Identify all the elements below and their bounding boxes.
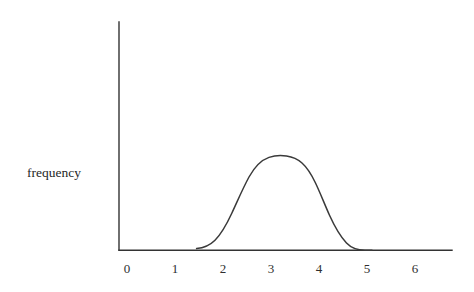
chart-background <box>0 0 474 292</box>
x-tick-label-0: 0 <box>124 261 131 276</box>
x-tick-label-6: 6 <box>412 261 419 276</box>
chart-figure: 0 1 2 3 4 5 6 frequency <box>0 0 474 292</box>
x-tick-label-1: 1 <box>172 261 179 276</box>
x-tick-label-3: 3 <box>268 261 275 276</box>
y-axis-title: frequency <box>27 165 81 180</box>
x-tick-label-5: 5 <box>364 261 371 276</box>
x-tick-label-4: 4 <box>316 261 323 276</box>
frequency-distribution-chart: 0 1 2 3 4 5 6 frequency <box>0 0 474 292</box>
x-tick-label-2: 2 <box>220 261 227 276</box>
